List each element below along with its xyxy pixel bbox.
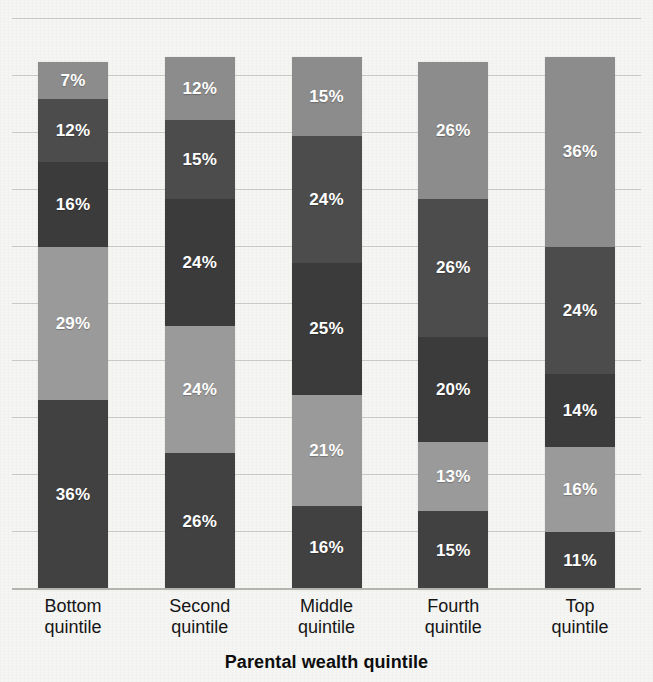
segment-value-label: 25% <box>309 320 344 337</box>
segment-value-label: 14% <box>563 402 598 419</box>
segment-value-label: 36% <box>56 486 91 503</box>
segment-value-label: 12% <box>56 122 91 139</box>
bar-column: 7%12%16%29%36% <box>38 18 108 590</box>
category-label-line1: Second <box>165 596 235 617</box>
bar-segment[interactable]: 20% <box>418 337 488 443</box>
bar-segment[interactable]: 13% <box>418 442 488 511</box>
category-label-line1: Bottom <box>38 596 108 617</box>
plot-area: 7%12%16%29%36%12%15%24%24%26%15%24%25%21… <box>12 18 641 590</box>
bar-column: 36%24%14%16%11% <box>545 18 615 590</box>
bar-stack[interactable]: 26%26%20%13%15% <box>418 62 488 590</box>
segment-value-label: 24% <box>182 254 217 271</box>
bar-segment[interactable]: 16% <box>292 506 362 590</box>
category-label-line2: quintile <box>545 617 615 638</box>
bar-segment[interactable]: 15% <box>165 120 235 199</box>
segment-value-label: 7% <box>61 72 86 89</box>
bar-segment[interactable]: 26% <box>165 453 235 590</box>
bar-segment[interactable]: 36% <box>38 400 108 590</box>
bar-segment[interactable]: 12% <box>165 57 235 120</box>
bar-segment[interactable]: 15% <box>418 511 488 590</box>
segment-value-label: 16% <box>309 539 344 556</box>
segment-value-label: 36% <box>563 143 598 160</box>
segment-value-label: 26% <box>436 122 471 139</box>
category-label: Topquintile <box>545 596 615 648</box>
bar-segment[interactable]: 14% <box>545 374 615 448</box>
category-label-line2: quintile <box>292 617 362 638</box>
segment-value-label: 16% <box>563 481 598 498</box>
bar-stack[interactable]: 12%15%24%24%26% <box>165 57 235 590</box>
bar-segment[interactable]: 12% <box>38 99 108 162</box>
segment-value-label: 15% <box>182 151 217 168</box>
segment-value-label: 11% <box>563 552 597 569</box>
segment-value-label: 12% <box>182 80 217 97</box>
segment-value-label: 15% <box>436 542 471 559</box>
bar-segment[interactable]: 24% <box>292 136 362 263</box>
bar-segment[interactable]: 26% <box>418 199 488 336</box>
category-label: Fourthquintile <box>418 596 488 648</box>
bar-segment[interactable]: 16% <box>38 162 108 246</box>
bar-segment[interactable]: 15% <box>292 57 362 136</box>
bar-segment[interactable]: 21% <box>292 395 362 506</box>
axis-baseline <box>12 588 641 590</box>
segment-value-label: 26% <box>436 259 471 276</box>
category-axis: BottomquintileSecondquintileMiddlequinti… <box>12 596 641 648</box>
segment-value-label: 13% <box>436 468 471 485</box>
bar-column: 15%24%25%21%16% <box>292 18 362 590</box>
bar-segment[interactable]: 24% <box>165 326 235 453</box>
category-label: Secondquintile <box>165 596 235 648</box>
segment-value-label: 21% <box>309 442 344 459</box>
bar-segment[interactable]: 26% <box>418 62 488 199</box>
bar-segment[interactable]: 7% <box>38 62 108 99</box>
bar-stack[interactable]: 7%12%16%29%36% <box>38 62 108 590</box>
x-axis-title: Parental wealth quintile <box>0 652 653 673</box>
category-label-line2: quintile <box>165 617 235 638</box>
bar-column: 12%15%24%24%26% <box>165 18 235 590</box>
bar-column: 26%26%20%13%15% <box>418 18 488 590</box>
segment-value-label: 24% <box>309 191 344 208</box>
bar-stack[interactable]: 15%24%25%21%16% <box>292 57 362 590</box>
bar-segment[interactable]: 11% <box>545 532 615 590</box>
bars-layer: 7%12%16%29%36%12%15%24%24%26%15%24%25%21… <box>12 18 641 590</box>
bar-stack[interactable]: 36%24%14%16%11% <box>545 57 615 590</box>
bar-segment[interactable]: 36% <box>545 57 615 247</box>
segment-value-label: 24% <box>182 381 217 398</box>
bar-segment[interactable]: 29% <box>38 247 108 400</box>
category-label-line1: Top <box>545 596 615 617</box>
segment-value-label: 29% <box>56 315 91 332</box>
bar-segment[interactable]: 24% <box>545 247 615 374</box>
category-label: Middlequintile <box>292 596 362 648</box>
category-label-line2: quintile <box>418 617 488 638</box>
segment-value-label: 26% <box>182 513 217 530</box>
segment-value-label: 20% <box>436 381 471 398</box>
category-label-line1: Middle <box>292 596 362 617</box>
category-label-line1: Fourth <box>418 596 488 617</box>
category-label: Bottomquintile <box>38 596 108 648</box>
bar-segment[interactable]: 24% <box>165 199 235 326</box>
category-label-line2: quintile <box>38 617 108 638</box>
stacked-bar-chart: 7%12%16%29%36%12%15%24%24%26%15%24%25%21… <box>0 0 653 682</box>
segment-value-label: 16% <box>56 196 91 213</box>
segment-value-label: 24% <box>563 302 598 319</box>
bar-segment[interactable]: 16% <box>545 447 615 531</box>
segment-value-label: 15% <box>309 88 344 105</box>
bar-segment[interactable]: 25% <box>292 263 362 395</box>
